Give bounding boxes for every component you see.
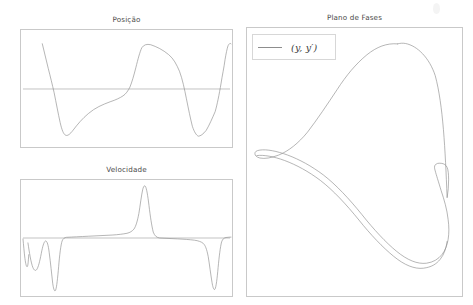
position-plot-svg: [21, 30, 232, 147]
scan-artifact-smudge: [433, 3, 440, 14]
velocity-plot-panel: [20, 179, 233, 297]
phase-plot-svg: [247, 28, 462, 296]
phase-transient-trajectory: [257, 155, 447, 268]
figure-canvas: Posição Velocidade Plano de Fases (y, y′…: [0, 0, 473, 305]
velocity-plot-svg: [21, 180, 232, 296]
phase-panel-title: Plano de Fases: [246, 13, 463, 22]
velocity-curve: [28, 186, 231, 291]
velocity-panel-title: Velocidade: [20, 165, 233, 174]
legend-line-swatch: [258, 47, 282, 48]
legend-label-phase-series: (y, y′): [291, 42, 317, 53]
phase-plot-panel: [246, 27, 463, 297]
phase-plot-legend: (y, y′): [252, 34, 336, 60]
position-curve: [42, 43, 231, 136]
phase-limit-cycle: [255, 43, 449, 263]
position-panel-title: Posição: [20, 15, 233, 24]
position-plot-panel: [20, 29, 233, 148]
